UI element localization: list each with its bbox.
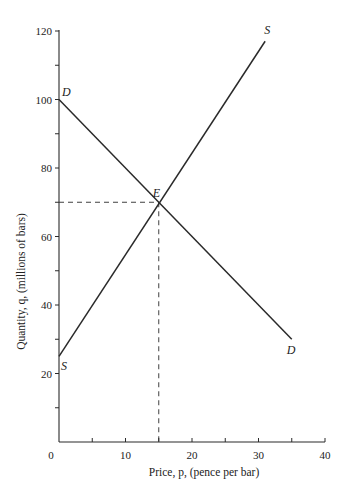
- x-axis-title: Price, p, (pence per bar): [149, 466, 260, 479]
- x-tick-label: 10: [120, 449, 132, 461]
- supply-label-start: S: [61, 359, 67, 373]
- y-tick-label: 100: [36, 94, 53, 106]
- curves: [59, 41, 292, 356]
- chart-labels: 01020304020406080100120Price, p, (pence …: [15, 23, 331, 479]
- supply-label-end: S: [264, 23, 270, 37]
- axis-ticks: [55, 31, 325, 442]
- demand-label-start: D: [61, 85, 71, 99]
- y-tick-label: 20: [41, 368, 53, 380]
- x-tick-label: 30: [253, 449, 265, 461]
- supply-demand-chart: 01020304020406080100120Price, p, (pence …: [0, 0, 348, 500]
- y-axis-title: Quantity, q, (millions of bars): [15, 213, 28, 350]
- y-tick-label: 80: [41, 162, 53, 174]
- equilibrium-guides: [59, 202, 159, 442]
- x-tick-label: 20: [187, 449, 199, 461]
- supply-curve: [59, 41, 265, 356]
- equilibrium-label: E: [152, 186, 161, 200]
- y-tick-label: 120: [36, 25, 53, 37]
- demand-label-end: D: [286, 343, 296, 357]
- x-tick-label: 0: [48, 449, 54, 461]
- y-tick-label: 60: [41, 231, 53, 243]
- x-tick-label: 40: [320, 449, 332, 461]
- y-tick-label: 40: [41, 299, 53, 311]
